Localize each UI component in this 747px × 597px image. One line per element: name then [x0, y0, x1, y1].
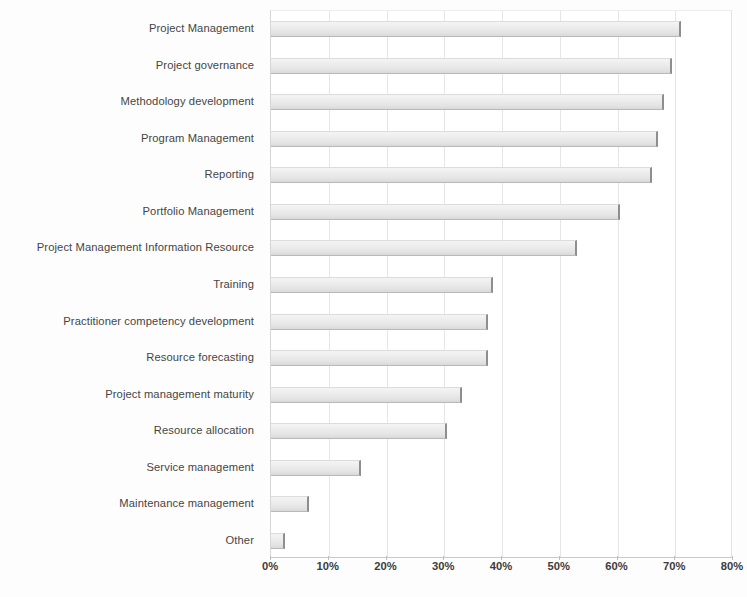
category-label: Training: [0, 278, 254, 290]
category-label-column: Project ManagementProject governanceMeth…: [0, 10, 262, 558]
category-label: Resource forecasting: [0, 351, 254, 363]
category-label: Project Management Information Resource: [0, 241, 254, 253]
gridline-60pct: [618, 11, 619, 557]
bar: [271, 533, 285, 549]
x-axis: 0%10%20%30%40%50%60%70%80%: [270, 560, 732, 582]
x-tick-label: 50%: [548, 560, 570, 572]
x-tick-label: 20%: [374, 560, 396, 572]
bar-chart: Project ManagementProject governanceMeth…: [0, 0, 747, 597]
bar: [271, 387, 462, 403]
category-label: Program Management: [0, 132, 254, 144]
x-tick-label: 0%: [262, 560, 278, 572]
bar: [271, 423, 447, 439]
bar: [271, 131, 658, 147]
bar: [271, 204, 620, 220]
bar: [271, 460, 361, 476]
bar: [271, 94, 664, 110]
x-tick-label: 80%: [721, 560, 743, 572]
gridline-70pct: [675, 11, 676, 557]
x-tick-label: 40%: [490, 560, 512, 572]
bar: [271, 21, 681, 37]
category-label: Methodology development: [0, 95, 254, 107]
bar: [271, 58, 672, 74]
bar: [271, 350, 488, 366]
bar: [271, 496, 309, 512]
category-label: Maintenance management: [0, 497, 254, 509]
bar: [271, 167, 652, 183]
bar: [271, 240, 577, 256]
category-label: Project Management: [0, 22, 254, 34]
bar: [271, 314, 488, 330]
category-label: Reporting: [0, 168, 254, 180]
bar: [271, 277, 493, 293]
gridline-50pct: [560, 11, 561, 557]
category-label: Resource allocation: [0, 424, 254, 436]
x-tick-label: 70%: [663, 560, 685, 572]
x-tick-label: 30%: [432, 560, 454, 572]
category-label: Portfolio Management: [0, 205, 254, 217]
gridline-40pct: [502, 11, 503, 557]
x-tick-label: 10%: [317, 560, 339, 572]
category-label: Service management: [0, 461, 254, 473]
plot-area: [270, 10, 732, 558]
category-label: Project governance: [0, 59, 254, 71]
x-tick-label: 60%: [605, 560, 627, 572]
category-label: Other: [0, 534, 254, 546]
category-label: Practitioner competency development: [0, 315, 254, 327]
category-label: Project management maturity: [0, 388, 254, 400]
